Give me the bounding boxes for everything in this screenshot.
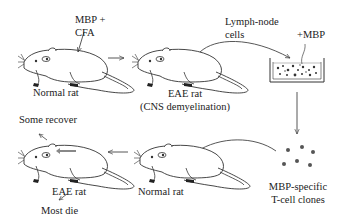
lymph-label-2: cells [225, 29, 244, 41]
clones-label-1: MBP-specific [258, 181, 338, 193]
clones-label-2: T-cell clones [258, 194, 338, 206]
most-die-label: Most die [41, 205, 78, 217]
add-mbp-label: +MBP [297, 29, 325, 41]
rat3-label: Normal rat [138, 186, 184, 198]
rat-normal-2 [134, 144, 250, 189]
arrow-lymph-to-dish [200, 41, 290, 58]
rat2-label-2: (CNS demyelination) [125, 101, 245, 113]
rat4-label: EAE rat [52, 186, 86, 198]
t-cell-clones [282, 145, 315, 167]
culture-dish [270, 58, 324, 82]
some-recover-label: Some recover [19, 114, 77, 126]
injection-label-1: MBP + [75, 14, 105, 26]
rat-eae-1 [132, 48, 248, 93]
rat2-label-1: EAE rat [140, 88, 230, 100]
injection-label-2: CFA [75, 27, 95, 39]
rat-eae-2 [18, 144, 134, 189]
rat1-label: Normal rat [33, 87, 79, 99]
lymph-label-1: Lymph-node [225, 16, 279, 28]
arrow-some-recover [39, 134, 47, 140]
mbp-pointer-line [302, 44, 306, 64]
